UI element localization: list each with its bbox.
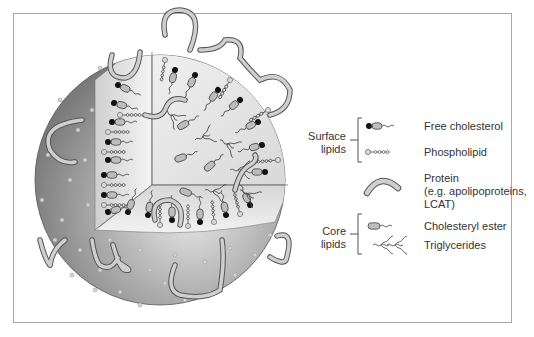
legend-phospholipid: Phospholipid xyxy=(424,146,487,159)
legend-protein-line2: (e.g. apolipoproteins, xyxy=(424,185,527,198)
lipoprotein-diagram xyxy=(0,0,534,337)
core-lipids-line1: Core xyxy=(296,225,346,238)
legend-cholesteryl-ester: Cholesteryl ester xyxy=(424,220,507,233)
legend xyxy=(350,118,407,254)
surface-lipids-line1: Surface xyxy=(296,130,346,143)
cholesteryl-ester-icon xyxy=(368,223,392,229)
core-lipids-bracket xyxy=(350,214,362,254)
legend-protein-line1: Protein xyxy=(424,172,527,185)
legend-protein: Protein (e.g. apolipoproteins, LCAT) xyxy=(424,172,527,211)
surface-lipids-line2: lipids xyxy=(296,143,346,156)
legend-triglycerides: Triglycerides xyxy=(424,239,486,252)
lipoprotein-sphere xyxy=(35,10,290,307)
legend-protein-line3: LCAT) xyxy=(424,198,527,211)
core-lipids-line2: lipids xyxy=(296,238,346,251)
triglycerides-icon xyxy=(373,236,407,254)
free-cholesterol-icon xyxy=(366,123,394,129)
surface-lipids-label: Surface lipids xyxy=(296,130,346,156)
legend-free-cholesterol: Free cholesterol xyxy=(424,120,503,133)
core-lipids-label: Core lipids xyxy=(296,225,346,251)
surface-lipids-bracket xyxy=(350,118,362,162)
phospholipid-icon xyxy=(365,149,389,154)
protein-icon xyxy=(367,181,398,193)
